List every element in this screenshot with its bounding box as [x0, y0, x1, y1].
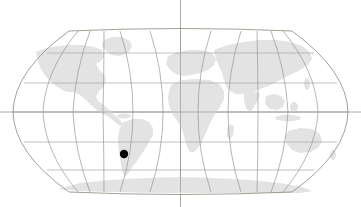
- landmass-japan: [304, 78, 310, 90]
- world-map-canvas: [0, 0, 361, 207]
- landmass-india: [244, 91, 260, 112]
- marker-layer: [120, 150, 128, 158]
- landmass-southeast-asia: [265, 94, 285, 110]
- landmass-africa: [168, 79, 224, 152]
- landmass-madagascar: [227, 124, 234, 140]
- landmass-europe: [166, 50, 216, 76]
- landmass-north-america: [36, 45, 112, 116]
- landmass-philippines: [290, 102, 298, 112]
- landmass-new-zealand: [330, 150, 336, 160]
- landmass-caribbean: [117, 114, 131, 119]
- meridian-30w: [150, 31, 163, 192]
- landmass-asia: [214, 40, 312, 94]
- location-marker[interactable]: [120, 150, 128, 158]
- world-map-figure: World map with single point location mar…: [0, 0, 361, 207]
- landmass-australia: [285, 128, 322, 153]
- landmass-south-america: [118, 119, 153, 176]
